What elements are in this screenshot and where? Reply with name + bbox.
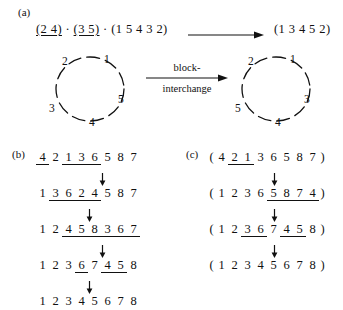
permutation-element: 2 [49,294,62,308]
transform-arrow-slot [208,243,326,258]
underlined-element: 2 [75,186,88,201]
permutation-element: 8 [293,150,306,164]
cycle-node-label: 3 [49,103,55,115]
permutation-row: 42136587 [36,150,140,171]
permutation-element: 7 [267,222,280,236]
permutation-element: 8 [127,258,140,272]
permutation-element: 7 [88,258,101,272]
underlined-element: 1 [241,150,254,165]
underlined-element: 8 [280,186,293,201]
panel-label-a: (a) [18,6,30,18]
result-permutation-expression: (1 3 4 5 2) [274,22,330,37]
permutation-element: 8 [114,150,127,164]
permutation-element: 1 [215,258,228,272]
permutation-row: (42136587) [208,150,326,171]
cycle-node-label: 1 [104,54,110,66]
permutation-element: 2 [228,186,241,200]
cycle-diagram-left: 12345 [42,48,138,130]
close-paren: ) [319,258,326,272]
cycle-node-label: 4 [275,117,281,129]
block-interchange-label-line1: block- [146,62,228,73]
underlined-element: 8 [88,222,101,237]
underlined-element: 2 [228,150,241,165]
permutation-element: 6 [254,186,267,200]
permutation-element: 2 [228,258,241,272]
underlined-cycle-factor: (2 4) [36,22,62,36]
permutation-element: 8 [306,258,319,272]
underlined-element: 4 [306,186,319,201]
permutation-element: 4 [215,150,228,164]
transform-arrow-slot [208,207,326,222]
open-paren: ( [208,186,215,200]
underlined-element: 4 [280,222,293,237]
permutation-row: 12367458 [36,258,140,279]
underlined-element: 3 [49,186,62,201]
permutation-element: 6 [267,150,280,164]
cycle-node-label: 2 [248,56,254,68]
block-interchange-transform: block- interchange [146,62,228,96]
permutation-element: 1 [215,222,228,236]
transform-arrow-slot [36,279,140,294]
transform-arrow-slot [36,171,140,186]
underlined-element: 5 [114,258,127,273]
close-paren: ) [319,186,326,200]
cycle-node-label: 2 [62,56,68,68]
permutation-row: 13624587 [36,186,140,207]
down-arrow-icon [98,245,107,258]
permutation-element: 7 [114,294,127,308]
cycle-node-label: 4 [89,117,95,129]
underlined-element: 3 [101,222,114,237]
permutation-row: 12458367 [36,222,140,243]
right-arrow-icon [188,31,264,39]
permutation-element: 5 [88,294,101,308]
permutation-element: 6 [101,294,114,308]
underlined-element: 5 [75,222,88,237]
underlined-cycle-factor: (3 5) [74,22,100,36]
down-arrow-icon [270,245,279,258]
underlined-element: 7 [293,186,306,201]
down-arrow-icon [98,173,107,186]
underlined-element: 6 [114,222,127,237]
open-paren: ( [208,222,215,236]
underlined-element: 6 [75,258,88,273]
underlined-element: 3 [241,222,254,237]
permutation-product-expression: (2 4) · (3 5) · (1 5 4 3 2) [36,22,168,37]
underlined-element: 4 [36,150,49,165]
close-paren: ) [319,150,326,164]
cycle-node-label: 5 [118,94,124,106]
underlined-element: 5 [293,222,306,237]
underlined-element: 5 [267,186,280,201]
open-paren: ( [208,150,215,164]
cycle-diagram-right: 12543 [228,48,324,130]
permutation-element: 3 [241,258,254,272]
underlined-element: 4 [88,186,101,201]
underlined-element: 4 [101,258,114,273]
transform-arrow-slot [36,207,140,222]
close-paren: ) [319,222,326,236]
underlined-element: 1 [62,150,75,165]
permutation-element: 7 [127,150,140,164]
cycle-factor: · (1 5 4 3 2) [100,22,168,36]
permutation-element: 8 [306,222,319,236]
permutation-element: 5 [267,258,280,272]
equation-row: (2 4) · (3 5) · (1 5 4 3 2) (1 3 4 5 2) [36,22,336,42]
down-arrow-icon [270,209,279,222]
permutation-row: 12345678 [36,294,140,310]
permutation-element: 1 [36,186,49,200]
permutation-element: 5 [280,150,293,164]
cycle-node-label: 3 [304,94,310,106]
down-arrow-icon [85,209,94,222]
permutation-element: 3 [254,150,267,164]
permutation-element: 3 [62,258,75,272]
transform-arrow-slot [36,243,140,258]
permutation-row: (12365874) [208,186,326,207]
underlined-element: 6 [62,186,75,201]
underlined-element: 4 [62,222,75,237]
permutation-element: 2 [49,222,62,236]
down-arrow-icon [85,281,94,294]
permutation-element: 3 [62,294,75,308]
permutation-element: 7 [306,150,319,164]
permutation-element: 6 [280,258,293,272]
right-arrow-icon [146,74,228,82]
permutation-element: 8 [114,186,127,200]
